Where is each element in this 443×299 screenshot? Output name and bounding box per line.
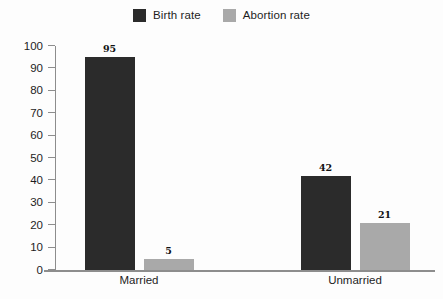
bar-chart: Birth rate Abortion rate 010203040506070… [0, 0, 443, 299]
y-tick-label-30: 30 [30, 196, 43, 208]
y-tick-50: 50 [48, 157, 55, 158]
bar-married-abortion-rate[interactable]: 5 [144, 259, 194, 270]
bar-married-birth-rate[interactable]: 95 [85, 57, 135, 270]
legend-swatch-abortion-rate [223, 9, 236, 22]
y-tick-label-50: 50 [30, 152, 43, 164]
y-tick-label-0: 0 [37, 264, 43, 276]
y-axis-line [55, 46, 56, 270]
y-tick-0: 0 [48, 269, 55, 270]
y-tick-label-40: 40 [30, 174, 43, 186]
y-tick-90: 90 [48, 67, 55, 68]
y-tick-label-90: 90 [30, 62, 43, 74]
legend-swatch-birth-rate [133, 9, 146, 22]
bar-unmarried-abortion-rate[interactable]: 21 [360, 223, 410, 270]
y-tick-40: 40 [48, 179, 55, 180]
y-tick-label-60: 60 [30, 129, 43, 141]
x-axis-line [44, 270, 435, 272]
y-tick-60: 60 [48, 135, 55, 136]
plot-area: 0102030405060708090100 9554221 MarriedUn… [55, 46, 435, 270]
y-tick-70: 70 [48, 112, 55, 113]
bar-value-label: 95 [103, 43, 116, 54]
x-axis-label-married: Married [120, 274, 159, 286]
bar-unmarried-birth-rate[interactable]: 42 [301, 176, 351, 270]
y-tick-label-100: 100 [24, 40, 43, 52]
legend-label-birth-rate: Birth rate [153, 9, 201, 22]
legend-item-birth-rate[interactable]: Birth rate [133, 9, 201, 22]
y-tick-20: 20 [48, 224, 55, 225]
y-tick-label-10: 10 [30, 241, 43, 253]
bar-value-label: 21 [378, 209, 391, 220]
x-axis-label-unmarried: Unmarried [328, 274, 382, 286]
bar-value-label: 5 [165, 245, 172, 256]
legend-label-abortion-rate: Abortion rate [243, 9, 310, 22]
y-tick-label-80: 80 [30, 84, 43, 96]
y-tick-label-70: 70 [30, 107, 43, 119]
legend-item-abortion-rate[interactable]: Abortion rate [223, 9, 310, 22]
chart-legend: Birth rate Abortion rate [0, 9, 443, 22]
y-tick-80: 80 [48, 90, 55, 91]
y-tick-label-20: 20 [30, 219, 43, 231]
y-tick-100: 100 [48, 45, 55, 46]
y-tick-10: 10 [48, 247, 55, 248]
y-tick-30: 30 [48, 202, 55, 203]
bar-value-label: 42 [319, 162, 332, 173]
